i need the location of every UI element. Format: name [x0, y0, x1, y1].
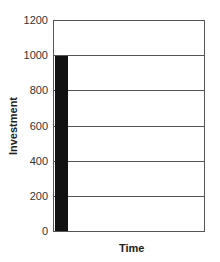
gridline-200: [54, 196, 204, 197]
y-tick-800: 800: [8, 84, 48, 96]
gridline-1000: [54, 55, 204, 56]
gridline-400: [54, 161, 204, 162]
gridline-800: [54, 90, 204, 91]
gridline-600: [54, 126, 204, 127]
y-tick-600: 600: [8, 120, 48, 132]
y-tick-0: 0: [8, 225, 48, 237]
y-tick-400: 400: [8, 155, 48, 167]
y-tick-200: 200: [8, 190, 48, 202]
y-tick-1200: 1200: [8, 14, 48, 26]
bar-investment: [55, 56, 68, 231]
x-axis-label: Time: [119, 242, 144, 254]
plot-area: [53, 20, 205, 232]
y-tick-1000: 1000: [8, 49, 48, 61]
